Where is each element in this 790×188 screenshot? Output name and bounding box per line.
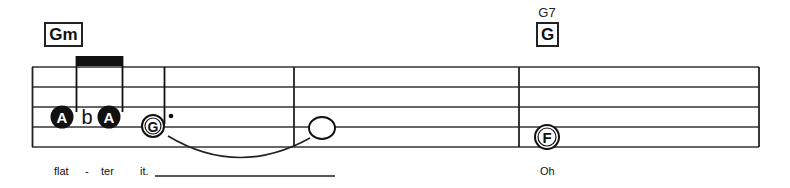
lyric-oh: Oh (540, 165, 555, 177)
lyric-flat: flat (54, 165, 69, 177)
svg-text:A: A (104, 109, 115, 126)
note-a2-icon: A (98, 106, 121, 129)
note-g-icon: G (142, 115, 164, 137)
svg-text:A: A (57, 109, 68, 126)
beam (76, 56, 123, 66)
note-f-icon: F (535, 125, 559, 149)
svg-text:G: G (148, 119, 159, 135)
note-a1-icon: A (51, 106, 74, 129)
lyric-it: it. (140, 165, 149, 177)
svg-text:F: F (542, 129, 551, 146)
whole-note-icon (309, 117, 335, 139)
dot-icon (169, 114, 174, 119)
music-staff: A b A G F (0, 0, 790, 188)
lyric-ter: ter (101, 165, 114, 177)
staff-lines (32, 67, 759, 147)
lyric-hyphen: - (85, 165, 89, 177)
flat-icon: b (81, 106, 92, 128)
